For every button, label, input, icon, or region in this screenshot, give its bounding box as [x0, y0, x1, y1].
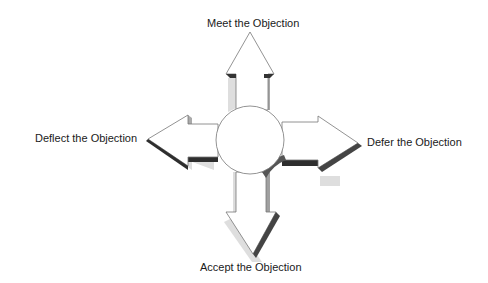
label-meet-objection: Meet the Objection [207, 17, 299, 29]
arrow-left [146, 115, 218, 170]
label-accept-objection: Accept the Objection [200, 261, 302, 273]
arrow-right [282, 116, 362, 172]
arrow-down [226, 172, 280, 258]
objection-handling-diagram: Meet the Objection Deflect the Objection… [0, 0, 488, 283]
center-circle [216, 106, 286, 178]
label-defer-objection: Defer the Objection [367, 136, 462, 148]
label-deflect-objection: Deflect the Objection [35, 132, 137, 144]
